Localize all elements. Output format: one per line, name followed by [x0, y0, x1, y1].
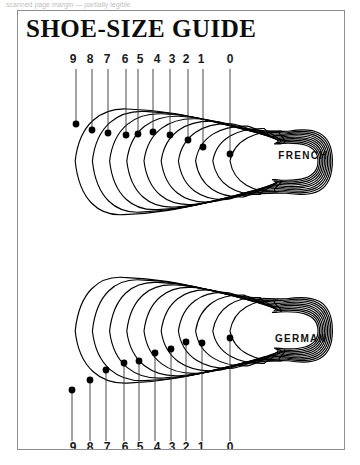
tick-label-french-6: 6 — [122, 52, 129, 66]
tick-label-french-8: 8 — [87, 52, 94, 66]
tick-label-german-2: 2 — [183, 440, 190, 449]
size-marker-french-6 — [123, 132, 130, 139]
size-marker-german-8 — [87, 377, 94, 384]
size-marker-german-5 — [136, 358, 143, 365]
size-marker-french-4 — [150, 129, 157, 136]
tick-label-german-4: 4 — [154, 440, 161, 449]
tick-label-french-5: 5 — [137, 52, 144, 66]
size-marker-french-7 — [105, 130, 112, 137]
tick-label-german-8: 8 — [87, 440, 94, 449]
panel-german: 9876543210GERMAN — [69, 277, 333, 449]
size-marker-french-9 — [73, 121, 80, 128]
tick-label-german-0: 0 — [227, 440, 234, 449]
tick-label-french-0: 0 — [227, 52, 234, 66]
tick-label-german-1: 1 — [198, 440, 205, 449]
guide-frame: SHOE-SIZE GUIDE 9876543210FRENCH 9876543… — [17, 10, 345, 450]
size-marker-german-7 — [103, 367, 110, 374]
tick-label-french-9: 9 — [70, 52, 77, 66]
size-marker-german-1 — [199, 340, 206, 347]
size-marker-german-2 — [183, 339, 190, 346]
size-marker-german-4 — [152, 350, 159, 357]
tick-label-french-3: 3 — [169, 52, 176, 66]
shoe-size-diagram: 9876543210FRENCH 9876543210GERMAN — [18, 11, 344, 449]
size-marker-german-0 — [227, 335, 234, 342]
tick-label-french-4: 4 — [154, 52, 161, 66]
tick-label-german-9: 9 — [70, 440, 77, 449]
panel-label-german: GERMAN — [275, 333, 327, 344]
tick-label-german-6: 6 — [122, 440, 129, 449]
size-marker-french-8 — [89, 127, 96, 134]
panel-french: 9876543210FRENCH — [70, 52, 333, 215]
tick-label-french-1: 1 — [198, 52, 205, 66]
size-marker-german-9 — [69, 387, 76, 394]
size-marker-french-1 — [200, 144, 207, 151]
tick-label-french-2: 2 — [183, 52, 190, 66]
tick-label-german-7: 7 — [104, 440, 111, 449]
tick-label-german-5: 5 — [137, 440, 144, 449]
sole-outline-size-9 — [75, 109, 332, 215]
size-marker-german-6 — [121, 360, 128, 367]
size-marker-german-3 — [168, 346, 175, 353]
tick-label-german-3: 3 — [169, 440, 176, 449]
sole-outline-size-1 — [213, 298, 320, 364]
panel-label-french: FRENCH — [278, 150, 327, 161]
scanned-page-margin: scanned page margin — partially legible — [0, 0, 360, 9]
size-marker-french-3 — [167, 132, 174, 139]
size-marker-french-0 — [227, 151, 234, 158]
sole-outline-size-9 — [75, 277, 332, 383]
size-marker-french-2 — [185, 137, 192, 144]
sole-outline-size-8 — [92, 280, 330, 381]
sole-outline-size-8 — [92, 111, 330, 212]
tick-label-french-7: 7 — [104, 52, 111, 66]
size-marker-french-5 — [135, 131, 142, 138]
